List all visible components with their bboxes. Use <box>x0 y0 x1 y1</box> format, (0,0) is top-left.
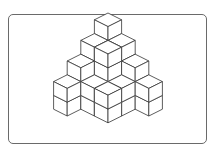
isometric-cube-stack <box>0 0 220 153</box>
